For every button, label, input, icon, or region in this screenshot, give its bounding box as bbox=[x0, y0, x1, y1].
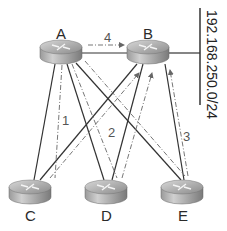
network-diagram: A B C D E 1 2 3 4 192.168.250.0/24 bbox=[0, 0, 227, 231]
flow-2-label: 2 bbox=[108, 126, 115, 139]
flow-3-label: 3 bbox=[183, 130, 190, 143]
router-c-icon bbox=[9, 180, 51, 204]
network-label: 192.168.250.0/24 bbox=[204, 10, 220, 119]
router-b-icon bbox=[127, 40, 169, 64]
router-d-icon bbox=[85, 180, 127, 204]
router-d-label: D bbox=[101, 208, 112, 223]
topology-svg bbox=[0, 0, 227, 231]
router-e-icon bbox=[161, 180, 203, 204]
router-b-label: B bbox=[143, 26, 153, 41]
router-a-icon bbox=[40, 40, 82, 64]
flow-1-label: 1 bbox=[62, 114, 69, 127]
router-e-label: E bbox=[178, 208, 188, 223]
router-a-label: A bbox=[56, 26, 66, 41]
physical-links bbox=[34, 53, 184, 180]
flow-4-label: 4 bbox=[104, 31, 111, 44]
router-c-label: C bbox=[25, 208, 36, 223]
